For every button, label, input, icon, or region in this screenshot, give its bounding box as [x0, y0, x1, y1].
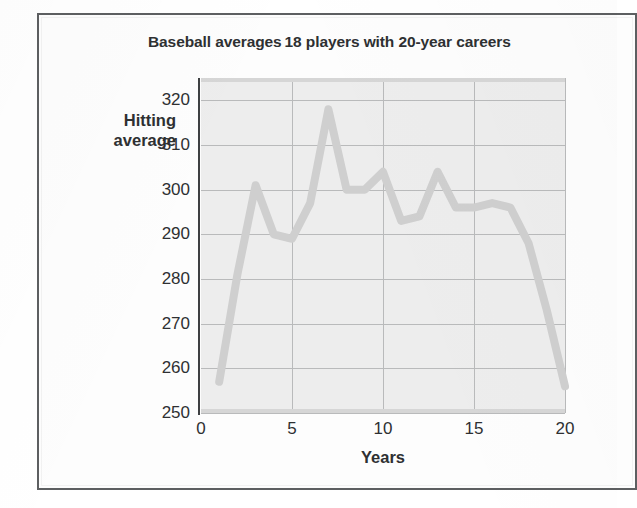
x-tick-label: 10: [361, 419, 405, 439]
chart-title: Baseball averages 18 players with 20-yea…: [148, 33, 618, 51]
plot-area: [201, 78, 565, 413]
y-tick-label: 280: [132, 269, 190, 289]
x-tick-label: 0: [179, 419, 223, 439]
x-tick-label: 15: [452, 419, 496, 439]
y-tick-label: 290: [132, 224, 190, 244]
gridline-vertical: [565, 78, 566, 413]
y-tick-label: 260: [132, 358, 190, 378]
data-series-line: [201, 78, 565, 413]
x-tick-label: 20: [543, 419, 587, 439]
y-axis-tick-labels: 250260270280290300310320: [132, 78, 190, 413]
y-tick-label: 300: [132, 180, 190, 200]
y-axis-spine: [198, 78, 200, 415]
y-tick-label: 320: [132, 90, 190, 110]
gridline-horizontal: [201, 413, 565, 414]
x-axis-tick-labels: 05101520: [201, 419, 565, 443]
y-tick-label: 270: [132, 314, 190, 334]
y-tick-label: 310: [132, 135, 190, 155]
x-axis-title: Years: [200, 448, 566, 467]
x-tick-label: 5: [270, 419, 314, 439]
